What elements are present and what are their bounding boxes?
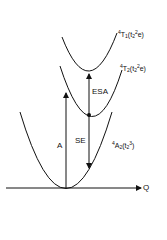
t2-minimum-dot <box>87 113 91 117</box>
t2-state-label: 4T2(t22e) <box>120 64 146 73</box>
t1-state-curve <box>62 33 117 71</box>
absorption-label: A <box>57 142 62 150</box>
t2-state-curve <box>60 66 122 117</box>
a2-state-label: 4A2(t23) <box>112 141 134 150</box>
se-label: SE <box>75 137 86 145</box>
esa-label: ESA <box>92 88 108 96</box>
t1-state-label: 4T1(t22e) <box>118 30 144 39</box>
q-axis-label: Q <box>143 184 149 192</box>
